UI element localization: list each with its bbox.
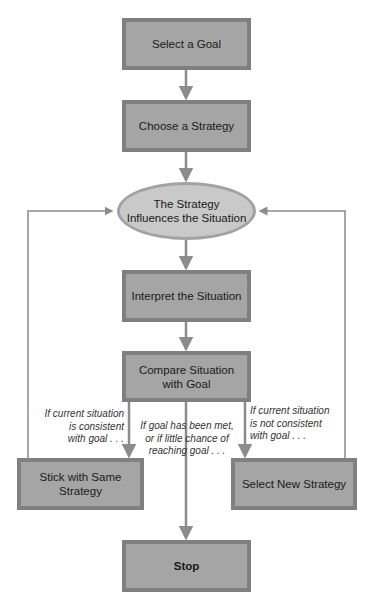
node-strategy-influences-situation: The Strategy Influences the Situation bbox=[117, 182, 256, 240]
node-label: Stop bbox=[174, 559, 200, 573]
label-line: is not consistent bbox=[250, 418, 350, 431]
node-stick-with-strategy: Stick with Same Strategy bbox=[17, 458, 144, 510]
label-line: or if little chance of bbox=[136, 433, 238, 446]
label-line: If current situation bbox=[250, 405, 350, 418]
label-line: If current situation bbox=[22, 408, 124, 421]
flowchart: Select a Goal Choose a Strategy The Stra… bbox=[0, 0, 373, 606]
branch-label-goal-met: If goal has been met, or if little chanc… bbox=[136, 420, 238, 458]
node-select-goal: Select a Goal bbox=[122, 18, 251, 70]
label-line: reaching goal . . . bbox=[136, 445, 238, 458]
node-label-line1: The Strategy bbox=[127, 197, 247, 211]
node-label-line1: Compare Situation bbox=[139, 363, 234, 377]
label-line: If goal has been met, bbox=[136, 420, 238, 433]
node-label: Select New Strategy bbox=[242, 477, 346, 491]
label-line: is consistent bbox=[22, 421, 124, 434]
node-label-line2: Influences the Situation bbox=[127, 211, 247, 225]
node-label: Stick with Same Strategy bbox=[21, 470, 140, 498]
node-label: Choose a Strategy bbox=[139, 119, 234, 133]
node-label: Select a Goal bbox=[152, 37, 221, 51]
label-line: with goal . . . bbox=[250, 430, 350, 443]
branch-label-not-consistent: If current situation is not consistent w… bbox=[250, 405, 350, 443]
node-label-line2: with Goal bbox=[139, 377, 234, 391]
node-select-new-strategy: Select New Strategy bbox=[231, 458, 357, 510]
node-compare-situation: Compare Situation with Goal bbox=[122, 351, 251, 402]
node-label: Interpret the Situation bbox=[132, 289, 242, 303]
node-choose-strategy: Choose a Strategy bbox=[122, 100, 251, 152]
node-stop: Stop bbox=[122, 540, 251, 592]
label-line: with goal . . . bbox=[22, 433, 124, 446]
branch-label-consistent: If current situation is consistent with … bbox=[22, 408, 124, 446]
node-interpret-situation: Interpret the Situation bbox=[122, 270, 251, 322]
